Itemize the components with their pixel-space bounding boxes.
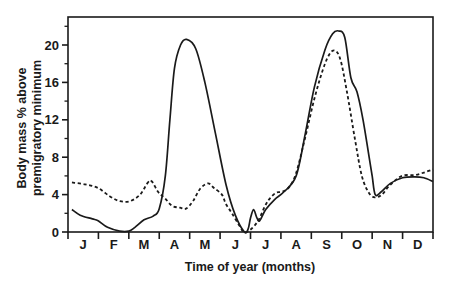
x-tick-label-month: A — [291, 237, 301, 252]
x-tick-label-month: F — [110, 237, 118, 252]
x-tick-label-month: D — [413, 237, 422, 252]
x-tick-label-month: M — [199, 237, 210, 252]
y-axis-title: Body mass % above premigratory minimum — [15, 60, 44, 196]
series-layer — [72, 31, 433, 233]
y-axis-title-line-2: premigratory minimum — [30, 60, 44, 196]
x-tick-label-month: O — [352, 237, 362, 252]
y-tick-label: 20 — [45, 38, 59, 53]
x-tick-label-month: J — [232, 237, 239, 252]
x-tick-label-month: M — [139, 237, 150, 252]
x-tick-label-month: J — [80, 237, 87, 252]
x-axis-title: Time of year (months) — [185, 260, 315, 274]
x-tick-label-month: J — [262, 237, 269, 252]
x-axis-ticks: JFMAMJJASOND — [68, 232, 433, 252]
y-tick-label: 16 — [45, 75, 59, 90]
x-tick-label-month: S — [322, 237, 331, 252]
x-tick-label-month: N — [383, 237, 392, 252]
x-tick-label-month: A — [170, 237, 180, 252]
y-tick-label: 0 — [52, 225, 59, 240]
plot-frame — [68, 17, 433, 232]
y-axis-ticks: 048121620 — [45, 26, 68, 239]
series-dashed-line — [72, 50, 433, 232]
y-tick-label: 8 — [52, 150, 59, 165]
y-tick-label: 4 — [52, 187, 60, 202]
line-chart: 048121620 JFMAMJJASOND Time of year (mon… — [0, 0, 450, 281]
y-tick-label: 12 — [45, 112, 59, 127]
y-axis-title-line-1: Body mass % above — [15, 68, 29, 189]
